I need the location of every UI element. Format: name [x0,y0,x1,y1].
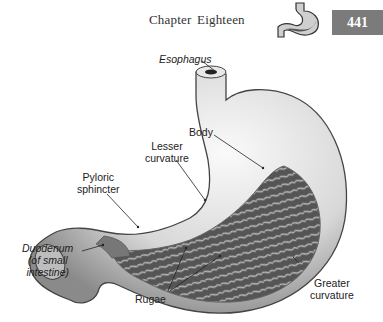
label-duodenum: Duodenum(of smallintestine) [22,242,73,278]
label-rugae: Rugae [135,293,166,305]
label-greater-curvature: Greatercurvature [310,277,354,301]
label-esophagus: Esophagus [159,53,212,65]
label-pyloric-sphincter: Pyloricsphincter [77,171,120,195]
label-lesser-curvature: Lessercurvature [145,140,189,164]
label-body: Body [189,126,213,138]
